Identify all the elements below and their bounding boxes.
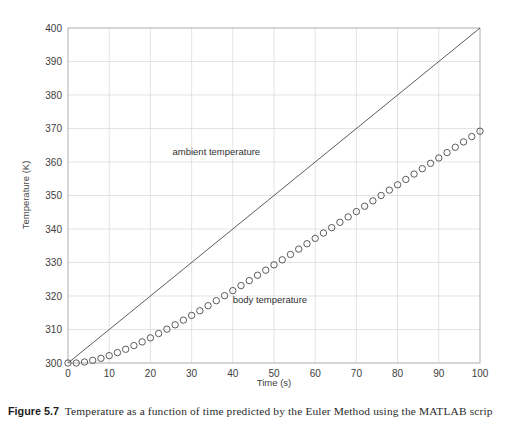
caption-label: Figure 5.7 (8, 405, 59, 417)
y-tick-label: 340 (45, 224, 62, 235)
x-tick-label: 60 (310, 368, 322, 379)
x-axis-title: Time (s) (257, 377, 291, 388)
x-tick-label: 80 (392, 368, 404, 379)
chart-annotation-label: ambient temperature (172, 146, 260, 157)
y-axis-title: Temperature (K) (20, 161, 31, 230)
y-tick-label: 370 (45, 123, 62, 134)
x-tick-label: 20 (145, 368, 157, 379)
x-tick-label: 100 (472, 368, 489, 379)
y-tick-label: 350 (45, 190, 62, 201)
y-tick-label: 330 (45, 257, 62, 268)
x-tick-label: 30 (186, 368, 198, 379)
y-tick-label: 390 (45, 56, 62, 67)
chart-svg: 0102030405060708090100 30031032033034035… (0, 0, 516, 392)
y-tick-label: 310 (45, 324, 62, 335)
y-tick-label: 400 (45, 23, 62, 34)
caption-text: Temperature as a function of time predic… (65, 405, 493, 417)
figure-container: 0102030405060708090100 30031032033034035… (0, 0, 516, 435)
x-tick-label: 70 (351, 368, 363, 379)
chart-plot: 0102030405060708090100 30031032033034035… (0, 0, 516, 392)
y-tick-label: 380 (45, 90, 62, 101)
x-tick-label: 0 (65, 368, 71, 379)
chart-annotation-label: body temperature (233, 294, 307, 305)
figure-caption: Figure 5.7 Temperature as a function of … (0, 404, 516, 418)
y-tick-label: 300 (45, 358, 62, 369)
x-tick-label: 40 (227, 368, 239, 379)
x-tick-label: 10 (104, 368, 116, 379)
y-tick-label: 320 (45, 291, 62, 302)
x-tick-label: 90 (433, 368, 445, 379)
y-tick-labels: 300310320330340350360370380390400 (45, 23, 62, 369)
y-tick-label: 360 (45, 157, 62, 168)
